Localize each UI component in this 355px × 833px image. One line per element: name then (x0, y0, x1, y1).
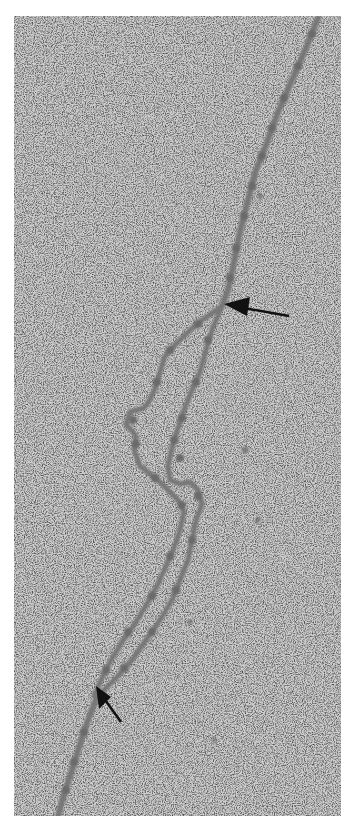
grainy-background (14, 16, 341, 816)
micrograph-image (0, 0, 355, 833)
micrograph-frame (0, 0, 355, 833)
